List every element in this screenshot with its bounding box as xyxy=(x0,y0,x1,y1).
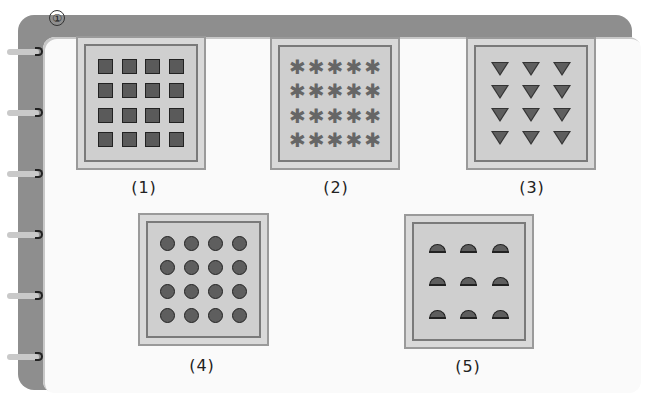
binder-ring-icon xyxy=(7,230,43,239)
semicircle-icon xyxy=(492,310,509,319)
panel-3-triangles xyxy=(466,37,596,170)
circle-icon xyxy=(208,308,223,323)
circle-icon xyxy=(208,236,223,251)
asterisk-icon: ✱ xyxy=(289,81,306,101)
circle-icon xyxy=(232,260,247,275)
asterisk-icon: ✱ xyxy=(289,106,306,126)
semicircle-icon xyxy=(429,244,446,253)
asterisk-icon: ✱ xyxy=(289,130,306,150)
binder-ring-icon xyxy=(7,352,43,361)
asterisk-icon: ✱ xyxy=(308,81,325,101)
asterisk-icon: ✱ xyxy=(327,57,344,77)
panel-5-semicircles xyxy=(404,214,534,349)
down-triangle-icon xyxy=(553,62,571,76)
square-icon xyxy=(98,108,113,123)
semicircle-icon xyxy=(429,277,446,286)
down-triangle-icon xyxy=(522,62,540,76)
panel-1-label: (1) xyxy=(114,178,174,197)
square-icon xyxy=(145,132,160,147)
panel-3-label: (3) xyxy=(502,178,562,197)
semicircle-icon xyxy=(429,310,446,319)
square-icon xyxy=(169,132,184,147)
square-icon xyxy=(122,132,137,147)
square-icon xyxy=(122,59,137,74)
asterisk-icon: ✱ xyxy=(289,57,306,77)
square-icon xyxy=(169,108,184,123)
down-triangle-icon xyxy=(522,108,540,122)
square-icon xyxy=(98,59,113,74)
square-icon xyxy=(122,108,137,123)
circle-icon xyxy=(184,260,199,275)
down-triangle-icon xyxy=(522,85,540,99)
circle-icon xyxy=(160,308,175,323)
square-icon xyxy=(145,59,160,74)
down-triangle-icon xyxy=(553,108,571,122)
panel-1-squares xyxy=(76,36,206,170)
down-triangle-icon xyxy=(491,131,509,145)
asterisk-icon: ✱ xyxy=(364,57,381,77)
asterisk-icon: ✱ xyxy=(345,57,362,77)
circle-icon xyxy=(184,284,199,299)
asterisk-icon: ✱ xyxy=(327,130,344,150)
semicircle-icon xyxy=(492,277,509,286)
square-icon xyxy=(145,108,160,123)
circle-icon xyxy=(160,236,175,251)
circle-icon xyxy=(208,284,223,299)
asterisk-icon: ✱ xyxy=(308,57,325,77)
circle-icon xyxy=(160,284,175,299)
asterisk-icon: ✱ xyxy=(345,106,362,126)
circle-icon xyxy=(160,260,175,275)
asterisk-icon: ✱ xyxy=(327,106,344,126)
square-icon xyxy=(169,83,184,98)
semicircle-icon xyxy=(460,277,477,286)
circle-icon xyxy=(208,260,223,275)
down-triangle-icon xyxy=(522,131,540,145)
down-triangle-icon xyxy=(491,108,509,122)
square-icon xyxy=(145,83,160,98)
asterisk-icon: ✱ xyxy=(345,81,362,101)
down-triangle-icon xyxy=(491,85,509,99)
down-triangle-icon xyxy=(491,62,509,76)
panel-4-circles xyxy=(138,213,269,346)
down-triangle-icon xyxy=(553,85,571,99)
asterisk-icon: ✱ xyxy=(345,130,362,150)
asterisk-icon: ✱ xyxy=(308,106,325,126)
square-icon xyxy=(169,59,184,74)
circle-icon xyxy=(232,236,247,251)
asterisk-icon: ✱ xyxy=(308,130,325,150)
square-icon xyxy=(98,132,113,147)
square-icon xyxy=(122,83,137,98)
asterisk-icon: ✱ xyxy=(364,106,381,126)
circle-icon xyxy=(184,308,199,323)
asterisk-icon: ✱ xyxy=(364,81,381,101)
semicircle-icon xyxy=(492,244,509,253)
panel-5-label: (5) xyxy=(438,357,498,376)
question-number: ① xyxy=(49,10,65,26)
panel-2-asterisks: ✱✱✱✱✱✱✱✱✱✱✱✱✱✱✱✱✱✱✱✱ xyxy=(270,37,400,170)
panel-2-label: (2) xyxy=(306,178,366,197)
asterisk-icon: ✱ xyxy=(327,81,344,101)
circle-icon xyxy=(184,236,199,251)
down-triangle-icon xyxy=(553,131,571,145)
panel-4-label: (4) xyxy=(172,356,232,375)
asterisk-icon: ✱ xyxy=(364,130,381,150)
semicircle-icon xyxy=(460,244,477,253)
binder-ring-icon xyxy=(7,169,43,178)
binder-ring-icon xyxy=(7,291,43,300)
semicircle-icon xyxy=(460,310,477,319)
binder-ring-icon xyxy=(7,47,43,56)
binder-ring-icon xyxy=(7,108,43,117)
circle-icon xyxy=(232,284,247,299)
circle-icon xyxy=(232,308,247,323)
square-icon xyxy=(98,83,113,98)
